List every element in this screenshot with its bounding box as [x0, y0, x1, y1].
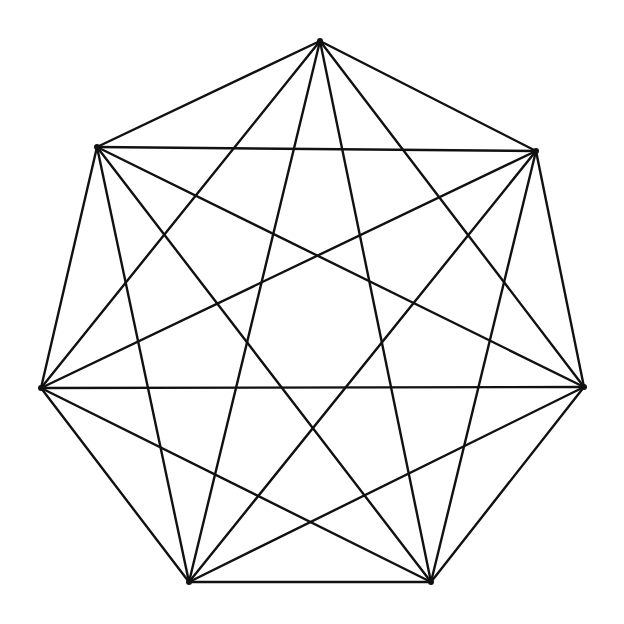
edge-v3-v5 [41, 388, 431, 582]
edge-v4-v6 [97, 147, 189, 582]
graph-edges [41, 41, 584, 582]
vertex-v1 [533, 148, 539, 154]
vertex-v5 [38, 385, 44, 391]
edge-v0-v6 [97, 41, 320, 147]
edge-v1-v5 [41, 151, 536, 388]
edge-v1-v2 [536, 151, 584, 387]
vertex-v3 [428, 579, 434, 585]
vertex-v6 [94, 144, 100, 150]
vertex-v0 [317, 38, 323, 44]
edge-v2-v5 [41, 387, 584, 388]
edge-v3-v6 [97, 147, 431, 582]
edge-v0-v2 [320, 41, 584, 387]
edge-v1-v6 [97, 147, 536, 151]
complete-graph-k7 [0, 0, 624, 624]
edge-v0-v1 [320, 41, 536, 151]
vertex-v4 [186, 579, 192, 585]
edge-v4-v5 [41, 388, 189, 582]
vertex-v2 [581, 384, 587, 390]
edge-v2-v4 [189, 387, 584, 582]
graph-vertices [38, 38, 587, 585]
edge-v0-v3 [320, 41, 431, 582]
